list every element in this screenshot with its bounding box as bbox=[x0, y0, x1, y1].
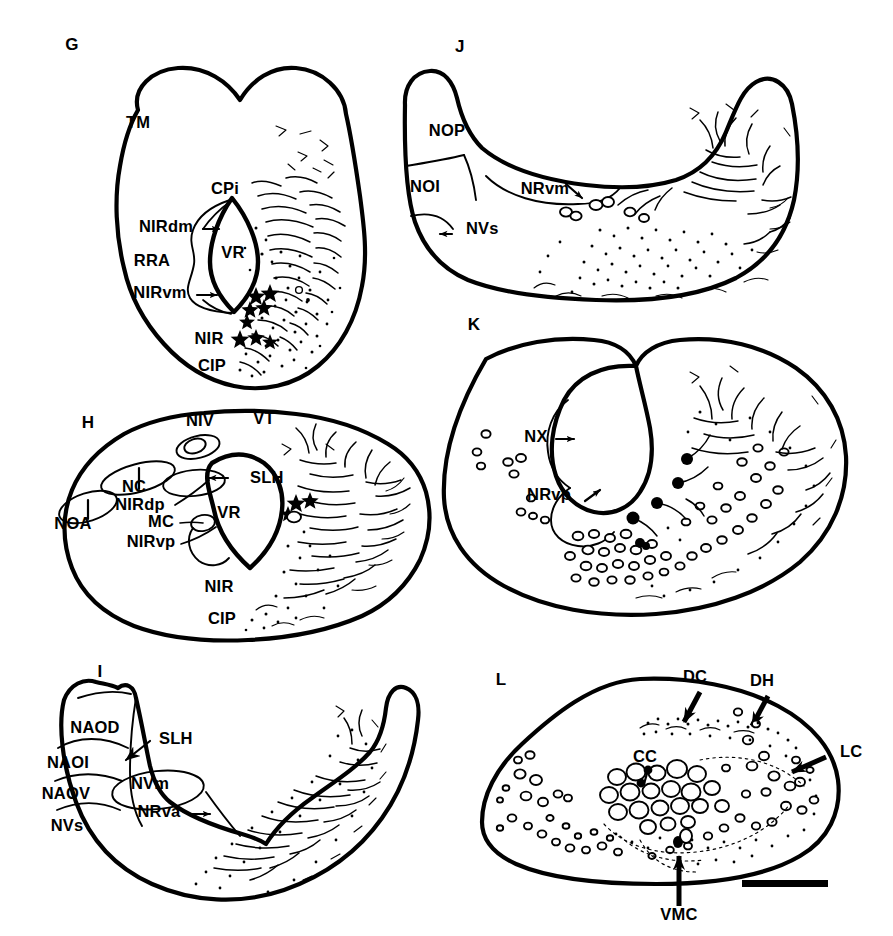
figure-root: G bbox=[0, 0, 893, 936]
panel-letter-L: L bbox=[496, 670, 507, 689]
panel-I-label-SLH: SLH bbox=[159, 729, 193, 747]
panel-letter-H: H bbox=[82, 413, 95, 432]
panel-K-label-NX: NX bbox=[524, 427, 547, 445]
panel-I-label-NAOD: NAOD bbox=[70, 718, 119, 736]
panel-L-label-VMC: VMC bbox=[660, 905, 697, 923]
panel-L-label-CC: CC bbox=[633, 747, 657, 765]
panel-H-label-NIV: NIV bbox=[186, 411, 214, 429]
panel-L-label-DC: DC bbox=[683, 667, 707, 685]
panel-G-label-NIRdm: NIRdm bbox=[139, 217, 193, 235]
panel-I-label-NVm: NVm bbox=[131, 774, 169, 792]
panel-J-label-NRvm: NRvm bbox=[521, 179, 569, 197]
panel-H-label-NIRdp: NIRdp bbox=[115, 495, 165, 513]
panel-H-leader-MC bbox=[180, 522, 203, 523]
panel-I-label-NAOV: NAOV bbox=[42, 784, 90, 802]
panel-H-label-VR: VR bbox=[217, 503, 240, 521]
panel-K-label-NRvp: NRvp bbox=[527, 485, 571, 503]
panel-L-cell-VMC bbox=[680, 829, 692, 843]
panel-H: H bbox=[54, 409, 429, 640]
panel-H-label-VT: VT bbox=[253, 409, 274, 427]
panel-H-label-NIRvp: NIRvp bbox=[127, 532, 176, 550]
panel-letter-J: J bbox=[455, 37, 465, 56]
panel-H-label-SLH: SLH bbox=[250, 468, 284, 486]
panel-G-label-TM: TM bbox=[126, 113, 150, 131]
panel-I-label-NAOI: NAOI bbox=[47, 753, 89, 771]
panel-J-label-NVs: NVs bbox=[466, 219, 499, 237]
panel-G-label-CPi: CPi bbox=[211, 179, 239, 197]
panel-I-label-NVs: NVs bbox=[51, 816, 84, 834]
panel-letter-G: G bbox=[65, 35, 79, 54]
panel-H-label-CIP: CIP bbox=[208, 609, 236, 627]
panel-G-label-NIRvm: NIRvm bbox=[133, 283, 186, 301]
scale-bar bbox=[742, 880, 828, 887]
panel-H-label-NC: NC bbox=[122, 477, 146, 495]
panel-I-label-NRva: NRva bbox=[138, 802, 182, 820]
panel-H-label-MC: MC bbox=[148, 512, 174, 530]
brainstem-section-figure: G bbox=[0, 0, 893, 936]
panel-letter-K: K bbox=[468, 315, 481, 334]
panel-G-label-RRA: RRA bbox=[134, 251, 170, 269]
panel-letter-I: I bbox=[97, 662, 102, 681]
panel-J-label-NOP: NOP bbox=[429, 121, 465, 139]
panel-H-label-NOA: NOA bbox=[54, 514, 91, 532]
panel-G-label-CIP: CIP bbox=[198, 356, 226, 374]
panel-L-label-LC: LC bbox=[840, 742, 862, 760]
panel-G-label-VR: VR bbox=[221, 243, 244, 261]
panel-H-label-NIR: NIR bbox=[204, 577, 233, 595]
panel-J-label-NOI: NOI bbox=[410, 177, 440, 195]
panel-L-label-DH: DH bbox=[750, 671, 774, 689]
panel-G-label-NIR: NIR bbox=[194, 329, 223, 347]
